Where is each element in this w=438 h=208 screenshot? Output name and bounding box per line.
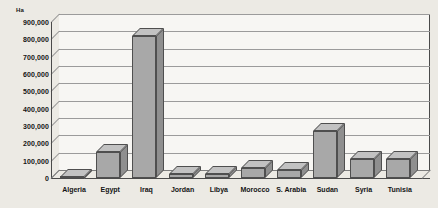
gridline xyxy=(59,101,430,102)
gridline xyxy=(59,14,430,15)
plot-area xyxy=(51,14,430,178)
bar-front-face xyxy=(277,170,301,178)
bar-front-face xyxy=(132,36,156,178)
y-axis-tick-label: 200,000 xyxy=(3,140,49,147)
bar-front-face xyxy=(96,152,120,178)
y-axis-tick-label: 600,000 xyxy=(3,71,49,78)
x-axis-category-label: Iraq xyxy=(140,186,153,193)
bar xyxy=(350,159,374,178)
bar xyxy=(96,152,120,178)
bar-side-face xyxy=(156,28,164,178)
x-axis-category-label: Syria xyxy=(355,186,372,193)
gridline xyxy=(59,66,430,67)
x-axis-category-label: Sudan xyxy=(317,186,338,193)
y-axis-tick-label: 400,000 xyxy=(3,105,49,112)
bar xyxy=(205,174,229,178)
gridline xyxy=(59,118,430,119)
bar-front-face xyxy=(60,176,84,178)
bar xyxy=(277,170,301,178)
bar-front-face xyxy=(350,159,374,178)
gridline xyxy=(59,49,430,50)
bar-chart: Ha 0100,000200,000300,000400,000500,0006… xyxy=(0,0,438,208)
gridline xyxy=(59,83,430,84)
x-axis-category-label: Libya xyxy=(210,186,228,193)
y-axis-tick-label: 0 xyxy=(3,175,49,182)
y-axis-line xyxy=(51,22,52,178)
bar xyxy=(386,159,410,178)
gridline xyxy=(59,31,430,32)
bar xyxy=(132,36,156,178)
bar-front-face xyxy=(313,131,337,178)
bar-front-face xyxy=(169,174,193,178)
y-axis-tick-label: 700,000 xyxy=(3,53,49,60)
y-axis-tick-label: 500,000 xyxy=(3,88,49,95)
bar xyxy=(313,131,337,178)
bar xyxy=(241,168,265,178)
x-axis-category-label: Morocco xyxy=(240,186,269,193)
bar-front-face xyxy=(386,159,410,178)
y-axis-tick-label: 800,000 xyxy=(3,36,49,43)
x-axis-category-label: Egypt xyxy=(100,186,119,193)
gridline xyxy=(59,135,430,136)
bar-side-face xyxy=(337,123,345,178)
x-axis-category-label: S. Arabia xyxy=(276,186,306,193)
x-axis-category-label: Jordan xyxy=(171,186,194,193)
x-axis-category-label: Tunisia xyxy=(388,186,412,193)
x-axis-category-label: Algeria xyxy=(62,186,86,193)
y-axis-tick-label: 300,000 xyxy=(3,123,49,130)
bar-front-face xyxy=(241,168,265,178)
y-axis-tick-labels: 0100,000200,000300,000400,000500,000600,… xyxy=(0,0,49,208)
bar xyxy=(60,177,84,178)
bar-front-face xyxy=(205,174,229,178)
y-axis-tick-label: 100,000 xyxy=(3,157,49,164)
bar xyxy=(169,174,193,178)
y-axis-tick-label: 900,000 xyxy=(3,19,49,26)
